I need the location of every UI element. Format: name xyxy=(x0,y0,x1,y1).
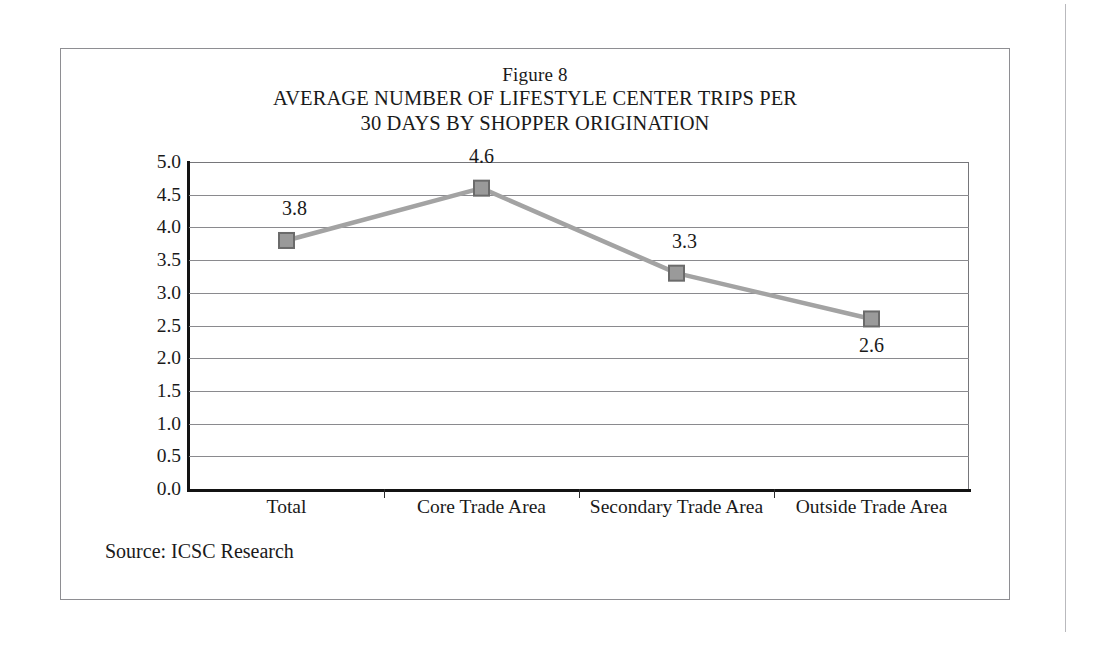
figure-frame: Figure 8 AVERAGE NUMBER OF LIFESTYLE CEN… xyxy=(60,48,1010,600)
y-axis-tick-label: 1.0 xyxy=(121,414,181,434)
y-axis-tick-label: 4.5 xyxy=(121,185,181,205)
y-axis-tick-label: 2.5 xyxy=(121,316,181,336)
page-scan-artifact-line xyxy=(1065,4,1066,632)
source-note: Source: ICSC Research xyxy=(105,540,294,563)
data-point-value-label: 3.3 xyxy=(672,231,697,251)
data-point-marker xyxy=(864,311,879,326)
data-point-marker xyxy=(279,233,294,248)
line-chart: 5.04.54.03.53.02.52.01.51.00.50.0 3.84.6… xyxy=(61,49,1011,601)
x-axis-category-label: Outside Trade Area xyxy=(774,495,969,518)
x-axis-category-label: Secondary Trade Area xyxy=(579,495,774,518)
y-axis-tick-label: 4.0 xyxy=(121,218,181,238)
y-axis-tick-labels: 5.04.54.03.53.02.52.01.51.00.50.0 xyxy=(119,162,181,489)
y-axis-tick-label: 1.5 xyxy=(121,381,181,401)
y-axis-tick-label: 2.0 xyxy=(121,348,181,368)
data-point-marker xyxy=(669,266,684,281)
x-axis-category-label: Total xyxy=(189,495,384,518)
data-point-value-label: 4.6 xyxy=(469,146,494,166)
series-polyline xyxy=(287,188,872,319)
y-axis-tick-label: 3.0 xyxy=(121,283,181,303)
y-axis-tick-label: 0.0 xyxy=(121,479,181,499)
x-axis-category-label: Core Trade Area xyxy=(384,495,579,518)
y-axis-tick-label: 0.5 xyxy=(121,447,181,467)
x-axis-category-labels: TotalCore Trade AreaSecondary Trade Area… xyxy=(189,495,969,555)
plot-area: 3.84.63.32.6 xyxy=(189,162,969,489)
data-point-value-label: 2.6 xyxy=(859,335,884,355)
y-axis-tick-label: 3.5 xyxy=(121,250,181,270)
data-point-value-label: 3.8 xyxy=(282,198,307,218)
y-axis-tick-label: 5.0 xyxy=(121,152,181,172)
data-point-marker xyxy=(474,181,489,196)
